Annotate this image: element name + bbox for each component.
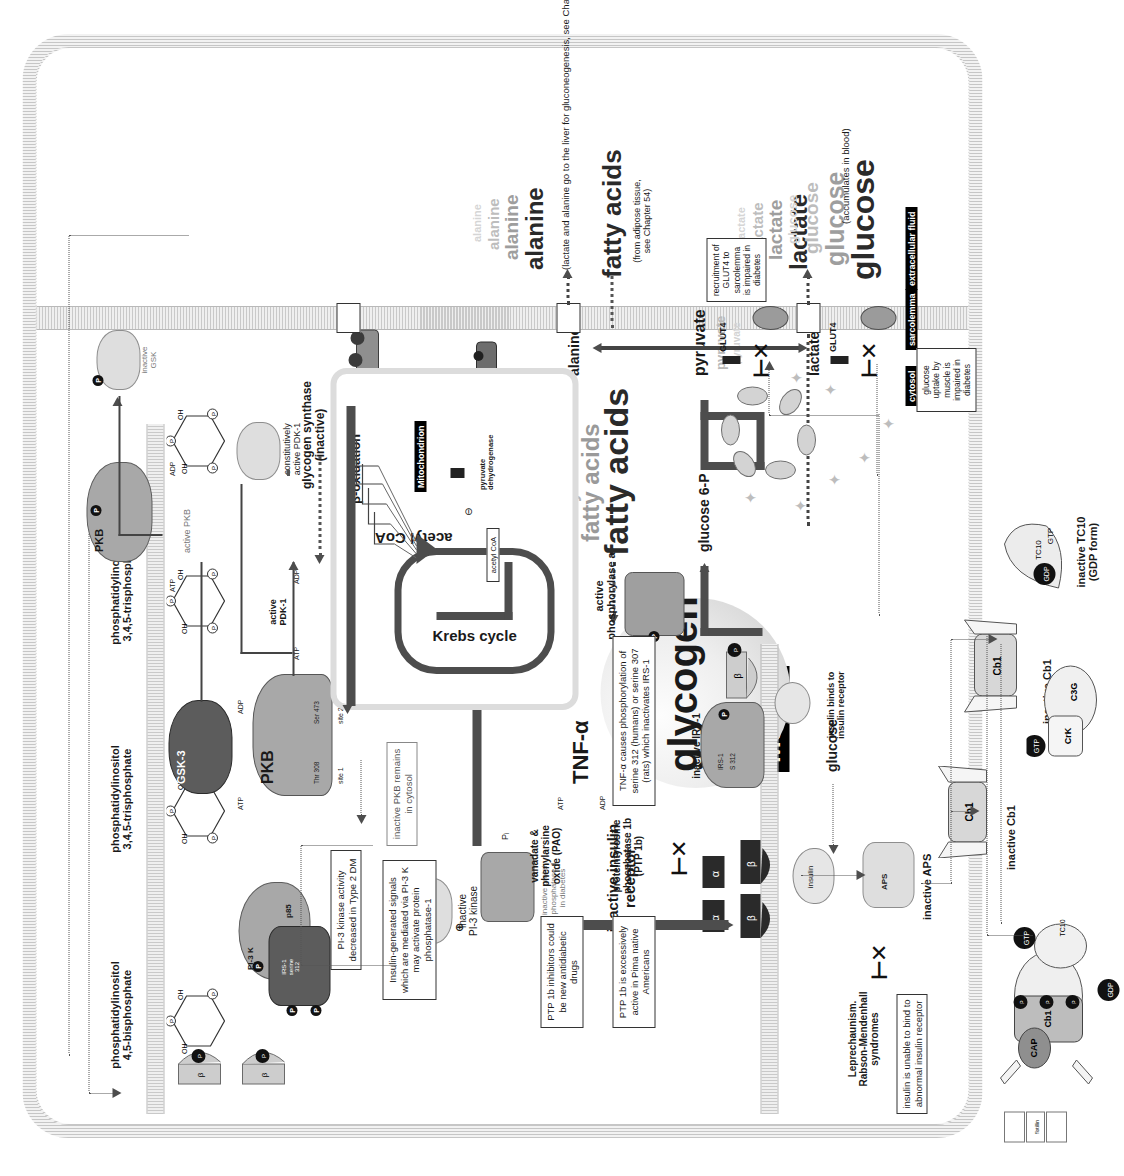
cbl-route-arrow-2 [988, 634, 997, 644]
svg-text:α: α [708, 870, 720, 877]
cbl-route-h3 [1000, 644, 1001, 924]
lactate-outside-g1: lactate [764, 200, 786, 260]
fatty-acids-outside: fatty acids [596, 149, 627, 278]
svg-text:Cb1: Cb1 [1042, 1010, 1052, 1027]
gsk3-inactivation-riser [118, 534, 162, 536]
glut4-vesicle-arrow [764, 361, 774, 370]
lactate-outside-g3: lactate [734, 207, 746, 242]
pkb-label: PKB [258, 750, 276, 784]
active-pdk1-label: active PDK-1 [268, 584, 288, 640]
svg-text:β: β [745, 915, 756, 921]
pdk1-activation-line [240, 484, 242, 654]
ptp1b-label: proteintyrosine phosphatase 1b (PTP 1b) [610, 798, 643, 914]
acetyl-coa-chip: acetyl CoA [486, 528, 499, 582]
insulin-bound-molecule [774, 682, 810, 724]
glut4-recruitment-note: recruitment of GLUT4 to sarcolemma is im… [706, 238, 766, 302]
alanine-outside-g1: alanine [500, 195, 522, 260]
glucose-molecule-6: ✦ [792, 499, 807, 512]
gsk3-label: GSK-3 [174, 750, 186, 784]
inactive-cbl-lower: Cb1 [960, 618, 1032, 714]
inactive-tc10-label: inactive TC10 (GDP form) [1074, 492, 1098, 612]
glut4-rail-left [878, 414, 879, 616]
svg-text:GTP: GTP [1032, 738, 1039, 753]
krebs-cycle-label: Krebs cycle [432, 628, 516, 648]
gsk-phospho-dot: P [92, 375, 103, 386]
pdh-minus-sign: ⊖ [462, 508, 473, 516]
ptp1b-note-a: PTP 1b inhibitors could be new antidiabe… [540, 916, 583, 1028]
glucose-outside-g3: glucose [784, 195, 799, 244]
phosphatase-note: Insulin-generated signals which are medi… [382, 860, 436, 1000]
liver-gluconeogenesis-note: (lactate and alanine go to the liver for… [560, 0, 570, 270]
inactive-cbl-upper: Cb1 [936, 766, 998, 858]
svg-text:P: P [210, 626, 216, 630]
aps-dotted-link [800, 875, 862, 876]
svg-text:OH: OH [180, 464, 187, 475]
svg-text:P: P [260, 1054, 266, 1058]
g6p-arrow [699, 563, 709, 572]
pdk1-blob [236, 422, 280, 480]
svg-text:P: P [210, 412, 216, 416]
svg-text:C3G: C3G [1068, 683, 1078, 702]
irs1-phospho-dot-b: P [310, 1005, 321, 1016]
svg-text:P: P [168, 599, 174, 603]
glucose-outside-g2: glucose [800, 182, 822, 254]
svg-text:flotillin: flotillin [1033, 1120, 1039, 1134]
lactate-export-arrow [802, 269, 812, 278]
glycogen-signal-rail [286, 470, 289, 476]
label-sarcolemma: sarcolemma [905, 289, 917, 350]
svg-text:P: P [210, 992, 216, 996]
glut4-label-vesicle: GLUT4 [718, 322, 728, 352]
cap-cbl-flotillin-complex: CAP Cb1 P P P GTP GDP TC10 [990, 884, 1120, 1114]
alanine-export-dotted [566, 275, 569, 305]
glucose-6p-label: glucose 6-P [696, 473, 711, 552]
svg-text:TC10: TC10 [1058, 919, 1065, 936]
pkb-phospho-dot: P [90, 505, 101, 516]
ptp1b-note-b: PTP 1b is excessively active in Pima nat… [612, 916, 655, 1028]
gsk3-inactivation-line [118, 396, 120, 536]
cbl-route-arrow-1 [970, 806, 979, 816]
svg-text:OH: OH [176, 990, 183, 1001]
fatty-acid-inflow-shaft [346, 406, 355, 706]
pkb-inactive-arrow [356, 815, 366, 824]
acetyl-coa-to-krebs2 [504, 562, 512, 620]
insulin-bind-block: ⊢✕ [866, 945, 892, 980]
svg-text:GTP: GTP [1045, 528, 1054, 544]
label-extracellular-fluid: extracellular fluid [905, 207, 917, 290]
pkb-to-pdk1-line [292, 562, 294, 676]
svg-text:P: P [210, 836, 216, 840]
irs1-ser312-phospho-dot: P [718, 709, 729, 720]
lipid-label-pip3-a: phosphatidylinositol 3,4,5-trisphosphate [108, 714, 132, 884]
glut4-block-upper: ⊢✕ [856, 343, 882, 378]
crk-c3g-complex: CrK C3G GTP [1026, 652, 1114, 772]
glycogen-synthase-dotted-arrow [314, 555, 324, 564]
ptp1b-block: ⊢✕ [666, 841, 692, 876]
svg-text:P: P [168, 439, 174, 443]
svg-text:P: P [1018, 1000, 1024, 1004]
pip3-dotted-feedback [88, 534, 89, 1094]
glut4-block-bar-upper [830, 356, 848, 364]
g6p-shaft2 [700, 566, 708, 636]
inactive-aps-label: inactive APS [920, 854, 932, 920]
lipid-label-pip2: phosphatidylinositol 4,5-bisphosphate [108, 930, 132, 1100]
signal-rail-drop-a [300, 845, 372, 846]
aps-chip-label: APS [880, 874, 889, 890]
glucose-uptake-note: glucose uptake by muscle is impaired in … [916, 348, 976, 412]
svg-text:CAP: CAP [1028, 1038, 1038, 1057]
phosphatase-arrow-shaft [472, 696, 481, 846]
svg-text:P: P [210, 466, 216, 470]
glycogen-synthase-dotted-feed [318, 456, 321, 556]
glucose-dotted-line [832, 784, 833, 846]
glucose-molecule-4: ✦ [822, 383, 837, 396]
svg-text:β: β [745, 861, 756, 867]
signal-rail-drop-b [300, 965, 396, 966]
signal-rail-mid [300, 846, 301, 966]
pkb-thr308-label: Thr 308 [312, 762, 319, 784]
svg-text:β: β [259, 1072, 268, 1077]
alanine-outside-g3: alanine [470, 204, 482, 242]
svg-text:GDP: GDP [1106, 982, 1113, 998]
insulin-receptor-beta-pair: β β P P [176, 1030, 296, 1090]
acetyl-coa-to-krebs [436, 612, 512, 620]
inactive-tc10-blob: TC10 GTP GDP [1000, 510, 1070, 596]
svg-text:P: P [1044, 1000, 1050, 1004]
cbl-route-h1 [950, 640, 951, 884]
